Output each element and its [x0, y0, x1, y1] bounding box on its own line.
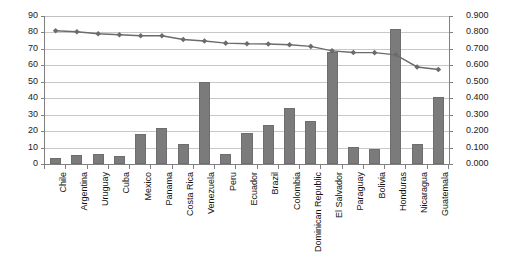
left-axis-tick [41, 115, 45, 116]
category-axis-tick [108, 164, 109, 169]
right-axis-tick-label: 0.500 [466, 77, 489, 86]
category-axis-tick [65, 164, 66, 169]
line-marker [180, 37, 186, 43]
left-axis-tick-label: 10 [28, 143, 38, 152]
right-axis-tick-label: 0.300 [466, 110, 489, 119]
line-marker [265, 41, 271, 47]
category-axis-tick [320, 164, 321, 169]
right-axis-tick [449, 98, 453, 99]
category-label: Mexico [144, 172, 153, 201]
line-marker [138, 33, 144, 39]
left-axis-tick-label: 20 [28, 126, 38, 135]
right-axis-tick-label: 0.400 [466, 93, 489, 102]
left-axis-tick [41, 131, 45, 132]
category-axis-tick [448, 164, 449, 169]
category-axis-tick [384, 164, 385, 169]
left-axis-tick [41, 98, 45, 99]
right-axis-labels: 0.0000.1000.2000.3000.4000.5000.6000.700… [456, 16, 512, 164]
category-axis-tick [214, 164, 215, 169]
line-series-svg [45, 16, 449, 164]
right-axis-tick-label: 0.900 [466, 11, 489, 20]
category-axis-tick [405, 164, 406, 169]
right-axis-tick-label: 0.200 [466, 126, 489, 135]
category-label: Honduras [399, 172, 408, 211]
category-label: Panama [165, 172, 174, 206]
left-axis-tick-label: 40 [28, 93, 38, 102]
line-marker [287, 42, 293, 48]
left-axis-tick-label: 70 [28, 44, 38, 53]
line-marker [393, 52, 399, 58]
category-label: Colombia [293, 172, 302, 210]
left-axis-tick [41, 148, 45, 149]
right-axis-tick [449, 16, 453, 17]
left-axis-tick [41, 49, 45, 50]
line-marker [372, 50, 378, 56]
category-label: Argentina [80, 172, 89, 211]
category-axis-tick [427, 164, 428, 169]
category-axis-tick [150, 164, 151, 169]
right-axis-tick [449, 49, 453, 50]
category-axis-tick [299, 164, 300, 169]
line-marker [117, 32, 123, 38]
category-axis-tick [235, 164, 236, 169]
left-axis-tick [41, 32, 45, 33]
right-axis-tick [449, 131, 453, 132]
right-axis-tick-label: 0.700 [466, 44, 489, 53]
right-axis-tick-label: 0.100 [466, 143, 489, 152]
left-axis-tick-label: 0 [33, 159, 38, 168]
category-axis: ChileArgentinaUruguayCubaMexicoPanamaCos… [44, 164, 448, 262]
category-axis-tick [342, 164, 343, 169]
right-axis-tick-label: 0.600 [466, 60, 489, 69]
right-axis-tick [449, 32, 453, 33]
category-label: Costa Rica [186, 172, 195, 216]
right-axis-tick [449, 82, 453, 83]
right-axis-tick-label: 0.800 [466, 27, 489, 36]
category-axis-tick [363, 164, 364, 169]
line-marker [244, 41, 250, 47]
chart-container: 0102030405060708090 0.0000.1000.2000.300… [0, 0, 515, 262]
left-axis-tick [41, 16, 45, 17]
left-axis-tick [41, 82, 45, 83]
category-label: Guatemala [441, 172, 450, 216]
category-axis-tick [129, 164, 130, 169]
category-label: Dominican Republic [314, 172, 323, 252]
line-marker [414, 64, 420, 70]
right-axis-tick [449, 148, 453, 149]
category-axis-tick [44, 164, 45, 169]
line-marker [436, 67, 442, 73]
line-marker [308, 44, 314, 50]
category-label: Chile [59, 172, 68, 193]
line-marker [95, 31, 101, 37]
category-label: Peru [229, 172, 238, 191]
line-marker [159, 33, 165, 39]
category-label: Nicaragua [420, 172, 429, 213]
left-axis-tick-label: 60 [28, 60, 38, 69]
right-axis-tick-label: 0.000 [466, 159, 489, 168]
left-axis-labels: 0102030405060708090 [0, 16, 38, 164]
category-axis-tick [257, 164, 258, 169]
left-axis-tick-label: 80 [28, 27, 38, 36]
line-marker [223, 40, 229, 46]
category-label: Brazil [271, 172, 280, 195]
left-axis-tick-label: 30 [28, 110, 38, 119]
right-axis-tick [449, 115, 453, 116]
right-axis-tick [449, 164, 453, 165]
plot-area [44, 16, 450, 164]
category-label: El Salvador [335, 172, 344, 218]
category-label: Paraguay [356, 172, 365, 211]
category-label: Bolivia [378, 172, 387, 199]
category-axis-tick [87, 164, 88, 169]
category-label: Cuba [122, 172, 131, 194]
right-axis-tick [449, 65, 453, 66]
line-marker [329, 48, 335, 54]
line-marker [74, 29, 80, 35]
category-label: Venezuela [207, 172, 216, 214]
left-axis-tick [41, 65, 45, 66]
category-axis-tick [172, 164, 173, 169]
line-marker [202, 38, 208, 44]
line-series [45, 16, 449, 164]
category-label: Uruguay [101, 172, 110, 206]
left-axis-tick-label: 50 [28, 77, 38, 86]
category-axis-tick [278, 164, 279, 169]
category-axis-tick [193, 164, 194, 169]
